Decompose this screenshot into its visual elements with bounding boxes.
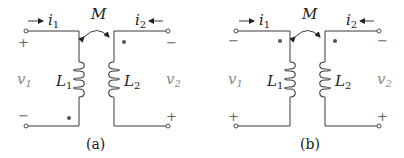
- mutual-inductance-label: M: [301, 5, 318, 23]
- v2-top-sign: −: [166, 35, 177, 50]
- right-bottom-wire: [114, 97, 166, 126]
- v1-bottom-sign: −: [18, 108, 29, 123]
- right-top-wire: [114, 31, 166, 62]
- terminal-circle: [166, 124, 170, 128]
- mutual-coupling-arrow-icon: [295, 31, 320, 38]
- inductor-l2-coil: [320, 62, 331, 97]
- inductor-l1-coil: [285, 62, 296, 97]
- polarity-dot-icon: [333, 39, 337, 43]
- v2-bottom-sign: +: [377, 109, 388, 124]
- terminal-circle: [377, 124, 381, 128]
- figure-caption: (b): [300, 136, 320, 152]
- current-i1-label: i1: [259, 11, 270, 30]
- inductor-l1-coil: [74, 62, 85, 97]
- v1-top-sign: +: [18, 35, 29, 50]
- voltage-v1-label: v1: [228, 70, 243, 89]
- left-bottom-wire: [238, 97, 290, 126]
- current-i2-label: i2: [346, 11, 357, 30]
- mutual-coupling-arrow-icon: [84, 31, 109, 38]
- voltage-v1-label: v1: [17, 70, 32, 89]
- terminal-circle: [234, 124, 238, 128]
- terminal-circle: [166, 29, 170, 33]
- polarity-dot-icon: [67, 116, 71, 120]
- figure-caption: (a): [86, 136, 105, 152]
- voltage-v2-label: v2: [166, 70, 181, 89]
- terminal-circle: [24, 124, 28, 128]
- current-i1-label: i1: [48, 11, 59, 30]
- inductor-l2-label: L2: [123, 72, 140, 91]
- v2-bottom-sign: +: [166, 109, 177, 124]
- polarity-dot-icon: [122, 40, 126, 44]
- inductor-l1-label: L1: [55, 72, 72, 91]
- inductor-l2-coil: [109, 62, 120, 97]
- left-top-wire: [28, 31, 79, 62]
- left-top-wire: [238, 31, 290, 62]
- coupled-inductors-diagram: M i1 i2 L1 L2 v1 v2 + − − + (a) M: [0, 0, 404, 158]
- figure-b: M i1 i2 L1 L2 v1 v2 − + − + (b): [228, 5, 392, 152]
- right-bottom-wire: [325, 97, 377, 126]
- figure-a: M i1 i2 L1 L2 v1 v2 + − − + (a): [17, 5, 181, 152]
- inductor-l1-label: L1: [266, 72, 283, 91]
- mutual-inductance-label: M: [90, 5, 107, 23]
- left-bottom-wire: [28, 97, 79, 126]
- current-i2-label: i2: [135, 11, 146, 30]
- polarity-dot-icon: [278, 39, 282, 43]
- v2-top-sign: −: [377, 33, 388, 48]
- right-top-wire: [325, 31, 377, 62]
- inductor-l2-label: L2: [334, 72, 351, 91]
- terminal-circle: [24, 29, 28, 33]
- v1-top-sign: −: [228, 33, 239, 48]
- v1-bottom-sign: +: [228, 109, 239, 124]
- voltage-v2-label: v2: [377, 70, 392, 89]
